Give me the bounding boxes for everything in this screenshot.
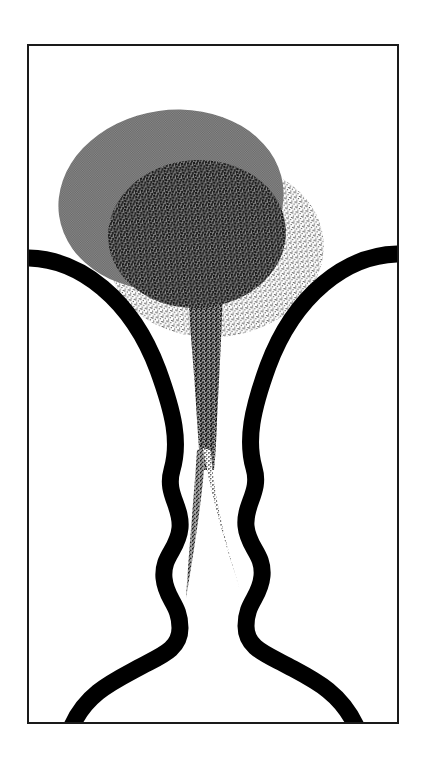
figure-root: Anatomical line illustration of a bladde… [0,0,424,762]
anatomical-illustration [0,0,424,762]
